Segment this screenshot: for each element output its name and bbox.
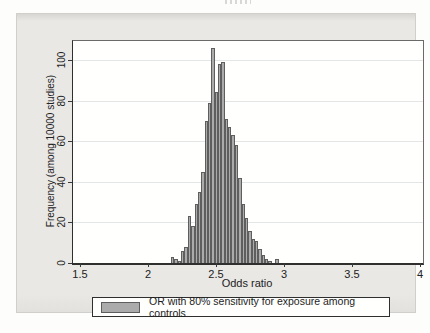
y-tick-0 xyxy=(68,263,72,264)
graph-box: 020406080100 1.522.533.54 Frequency (amo… xyxy=(16,13,416,313)
x-tick-4 xyxy=(420,263,421,267)
y-tick-80 xyxy=(68,101,72,102)
histogram-bar xyxy=(275,259,278,263)
legend-label: OR with 80% sensitivity for exposure amo… xyxy=(149,295,389,319)
y-tick-20 xyxy=(68,222,72,223)
y-tick-60 xyxy=(68,141,72,142)
screenshot: 020406080100 1.522.533.54 Frequency (amo… xyxy=(0,0,430,333)
y-tick-label-100: 100 xyxy=(56,45,68,75)
y-axis-title: Frequency (among 10000 studies) xyxy=(45,75,56,227)
x-tick-3 xyxy=(284,263,285,267)
scan-artifact xyxy=(225,0,251,4)
y-tick-label-20: 20 xyxy=(56,207,68,237)
y-tick-label-80: 80 xyxy=(56,86,68,116)
x-tick-3.5 xyxy=(352,263,353,267)
gridline-y-100 xyxy=(73,60,423,61)
gridline-y-60 xyxy=(73,141,423,142)
y-tick-label-40: 40 xyxy=(56,167,68,197)
legend-swatch xyxy=(101,302,140,313)
y-tick-label-60: 60 xyxy=(56,126,68,156)
x-axis-title: Odds ratio xyxy=(72,277,422,289)
x-tick-2.5 xyxy=(216,263,217,267)
plot-area: 020406080100 1.522.533.54 xyxy=(72,40,424,265)
x-tick-1.5 xyxy=(80,263,81,267)
histogram-bar xyxy=(268,261,271,263)
x-tick-2 xyxy=(148,263,149,267)
gridline-y-40 xyxy=(73,182,423,183)
y-tick-40 xyxy=(68,182,72,183)
gridline-y-80 xyxy=(73,101,423,102)
legend: OR with 80% sensitivity for exposure amo… xyxy=(92,297,390,317)
y-tick-100 xyxy=(68,60,72,61)
